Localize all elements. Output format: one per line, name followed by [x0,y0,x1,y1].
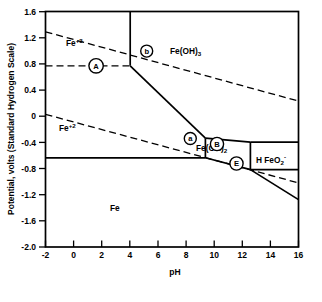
x-ticklabel-3: 4 [127,250,132,260]
x-axis-title: pH [169,267,180,277]
species-label-feoh3-sub: 3 [198,50,202,57]
y-ticklabel-1: 1.2 [24,33,36,43]
y-ticklabel-8: -1.6 [21,216,36,226]
pourbaix-diagram-figure: 1.6 1.2 0.8 0.4 0 -0.4 -0.8 -1.2 -1.6 -2… [0,0,322,302]
marker-B-label: B [214,140,220,149]
marker-A: A [89,59,103,73]
species-label-fe3-text: Fe [66,38,76,48]
phase-boundaries [46,12,299,200]
boundary-fe-hfeo2-lower-slope [250,170,298,200]
x-ticklabel-6: 10 [209,250,219,260]
species-label-fe3-sup: +3 [76,37,84,44]
marker-E: E [230,157,243,170]
x-axis-tick-labels: -2 0 2 4 6 8 10 12 14 16 [42,250,304,260]
species-label-fe2: Fe+2 [59,122,76,133]
x-ticklabel-9: 16 [294,250,304,260]
species-label-hfeo2-text: H FeO [256,155,281,165]
y-ticklabel-3: 0.4 [24,85,36,95]
marker-a: a [184,133,196,145]
species-label-fe2-sup: +2 [69,122,77,129]
species-label-hfeo2-sup: - [284,153,286,160]
marker-A-label: A [93,62,99,71]
species-label-fe3: Fe+3 [66,37,83,48]
x-ticklabel-0: -2 [42,250,50,260]
marker-B: B [210,137,223,150]
species-label-feoh3-text: Fe(OH) [170,46,198,56]
marker-b: b [141,45,153,57]
y-axis-ticks [39,12,46,247]
species-label-feoh2-sub: 2 [224,147,228,154]
species-label-fe: Fe [110,203,120,213]
marker-E-label: E [234,159,239,168]
y-ticklabel-6: -0.8 [21,164,36,174]
y-ticklabel-9: -2.0 [21,242,36,252]
y-ticklabel-4: 0 [31,111,36,121]
boundary-fe2-feoh3-slope [130,66,205,138]
pourbaix-chart-svg: 1.6 1.2 0.8 0.4 0 -0.4 -0.8 -1.2 -1.6 -2… [0,0,322,302]
marker-b-label: b [144,47,149,56]
y-axis-title: Potential, volts (Standard Hydrogen Scal… [6,43,16,215]
species-label-fe2-text: Fe [59,123,69,133]
y-ticklabel-7: -1.2 [21,190,36,200]
x-axis-ticks [46,241,299,248]
x-ticklabel-4: 6 [156,250,161,260]
species-label-feoh3: Fe(OH)3 [170,46,202,57]
x-ticklabel-1: 0 [71,250,76,260]
y-ticklabel-5: -0.4 [21,138,36,148]
x-ticklabel-5: 8 [184,250,189,260]
y-ticklabel-0: 1.6 [24,7,36,17]
x-ticklabel-7: 12 [238,250,248,260]
x-ticklabel-8: 14 [266,250,276,260]
species-label-hfeo2: H FeO2- [256,153,286,166]
species-label-hfeo2-sub: 2 [280,159,284,166]
y-ticklabel-2: 0.8 [24,59,36,69]
x-ticklabel-2: 2 [99,250,104,260]
water-stability-line-a [46,114,299,183]
y-axis-tick-labels: 1.6 1.2 0.8 0.4 0 -0.4 -0.8 -1.2 -1.6 -2… [21,7,36,252]
